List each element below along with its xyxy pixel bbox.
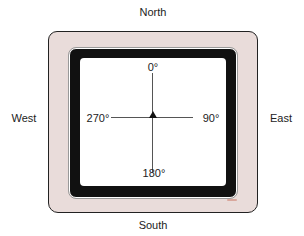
center-triangle-icon [149,111,157,118]
degree-0-label: 0° [148,61,159,73]
vertical-axis-line [152,73,153,172]
west-label: West [12,112,37,124]
power-indicator [227,199,237,201]
degree-270-label: 270° [87,112,110,124]
east-label: East [270,112,292,124]
south-label: South [139,219,168,231]
degree-180-label: 180° [143,167,166,179]
north-label: North [140,6,167,18]
degree-90-label: 90° [203,112,220,124]
